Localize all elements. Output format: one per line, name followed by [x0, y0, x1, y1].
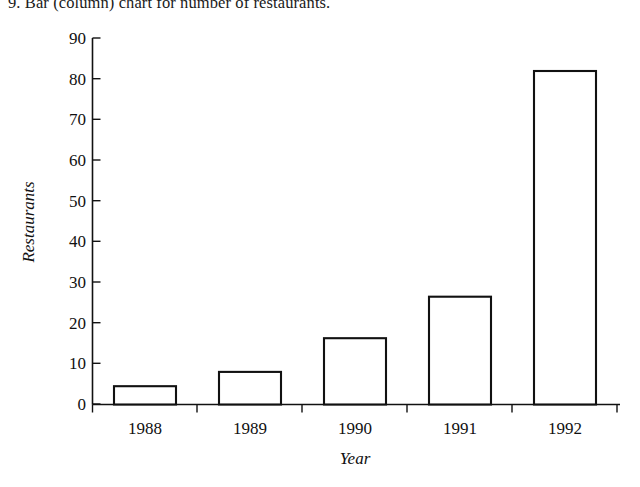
- x-tick-marks: [93, 405, 618, 413]
- x-tick-label-1990: 1990: [338, 419, 372, 438]
- x-tick-label-1988: 1988: [128, 419, 162, 438]
- bar-1988: [114, 386, 176, 404]
- x-tick-label-1992: 1992: [548, 419, 582, 438]
- bar-chart-figure: 90 80 70 60 50 40 30 20 10 0 Restaurants: [0, 0, 640, 487]
- y-tick-label-10: 10: [69, 354, 86, 373]
- y-tick-label-40: 40: [69, 232, 86, 251]
- y-tick-label-50: 50: [69, 192, 86, 211]
- x-tick-label-1991: 1991: [443, 419, 477, 438]
- y-tick-label-80: 80: [69, 70, 86, 89]
- bar-1992: [534, 71, 596, 405]
- bar-series: [114, 71, 596, 405]
- bar-1990: [324, 338, 386, 404]
- y-axis-title: Restaurants: [19, 181, 38, 264]
- x-axis-title: Year: [340, 449, 371, 468]
- x-tick-labels: 1988 1989 1990 1991 1992: [128, 419, 582, 438]
- y-tick-labels: 90 80 70 60 50 40 30 20 10 0: [69, 29, 86, 414]
- bar-1991: [429, 297, 491, 405]
- y-tick-label-0: 0: [78, 395, 87, 414]
- bar-1989: [219, 372, 281, 405]
- y-tick-label-90: 90: [69, 29, 86, 48]
- y-tick-marks: [93, 38, 101, 404]
- y-tick-label-60: 60: [69, 151, 86, 170]
- y-tick-label-30: 30: [69, 273, 86, 292]
- chart-plot-area: 90 80 70 60 50 40 30 20 10 0 Restaurants: [0, 0, 640, 487]
- y-tick-label-70: 70: [69, 110, 86, 129]
- y-tick-label-20: 20: [69, 314, 86, 333]
- x-tick-label-1989: 1989: [233, 419, 267, 438]
